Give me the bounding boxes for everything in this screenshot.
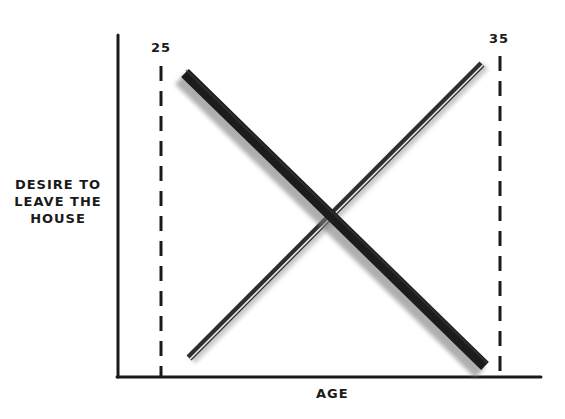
y-axis-label: DESIRE TO LEAVE THE HOUSE	[2, 176, 114, 227]
hand-drawn-chart: DESIRE TO LEAVE THE HOUSE AGE 25 35	[0, 0, 565, 419]
y-axis-label-line-3: HOUSE	[2, 210, 114, 227]
age-25-label: 25	[151, 40, 171, 55]
age-35-label: 35	[489, 31, 509, 46]
y-axis-label-line-1: DESIRE TO	[2, 176, 114, 193]
x-axis-label: AGE	[316, 386, 349, 401]
y-axis-label-line-2: LEAVE THE	[2, 193, 114, 210]
